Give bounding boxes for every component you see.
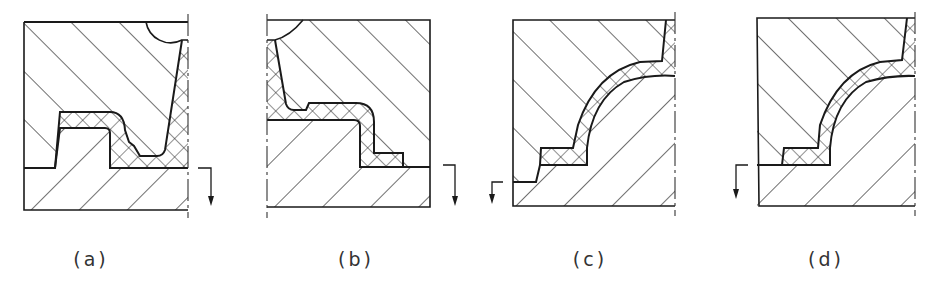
forging-die-figure — [0, 0, 934, 297]
direction-arrow-a — [198, 168, 211, 200]
panel-label-c: (c) — [573, 248, 607, 270]
direction-arrow-d — [736, 165, 748, 193]
panel-label-a: (a) — [73, 248, 108, 270]
panel-a — [24, 14, 214, 218]
direction-arrow-b — [443, 165, 455, 200]
panel-label-d: (d) — [808, 248, 844, 270]
panel-c — [489, 12, 675, 216]
panel-label-b: (b) — [338, 248, 374, 270]
panel-b — [267, 14, 458, 218]
panel-d — [733, 12, 915, 216]
